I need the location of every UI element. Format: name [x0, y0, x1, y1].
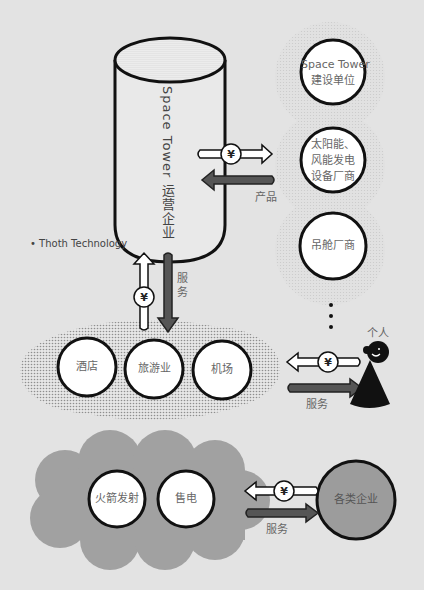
source-note: • Thoth Technology: [30, 236, 127, 251]
service-arrow-to-person: [288, 379, 362, 397]
enterprise-label: 各类企业: [326, 492, 386, 508]
energy-electricity-sale: 售电: [158, 491, 214, 507]
energy-cluster-cloud: [30, 430, 270, 570]
product-arrow-to-tower: [202, 170, 274, 190]
energy-rocket-launch: 火箭发射: [89, 491, 145, 507]
service-arrow-down: [158, 253, 178, 332]
service-label-person: 服务: [306, 397, 328, 412]
yen-icon: ¥: [320, 355, 336, 370]
yen-icon: ¥: [136, 290, 152, 305]
supplier-builder: Space Tower 建设单位: [301, 57, 365, 89]
service-label-enterprise: 服务: [266, 522, 288, 537]
supplier-gondola: 吊舱厂商: [301, 238, 365, 254]
yen-icon: ¥: [223, 147, 239, 162]
yen-icon: ¥: [276, 484, 292, 499]
more-suppliers-dots: [329, 303, 333, 329]
tourism-hotel: 酒店: [58, 359, 116, 375]
person-icon: [350, 341, 390, 408]
service-label-vertical: 服务: [176, 272, 189, 300]
product-label: 产品: [255, 190, 277, 205]
tourism-airport: 机场: [193, 362, 251, 378]
tourism-travel: 旅游业: [125, 361, 183, 377]
supplier-energy-equipment: 太阳能、 风能发电 设备厂商: [301, 137, 365, 185]
tower-label: Space Tower 运营企业: [160, 78, 175, 248]
person-label: 个人: [367, 326, 389, 341]
